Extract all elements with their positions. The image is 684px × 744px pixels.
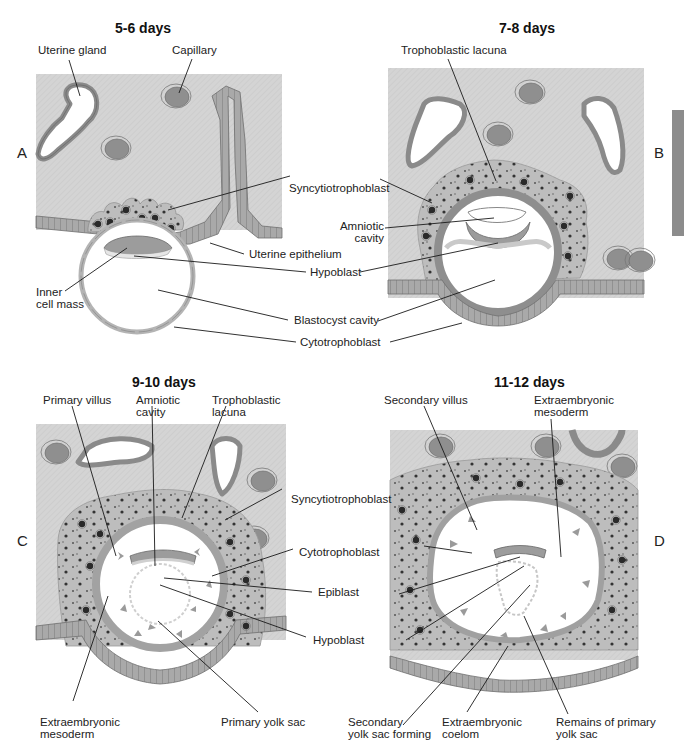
- panel-a-artwork: [36, 74, 282, 332]
- label-secondary-villus: Secondary villus: [384, 394, 468, 407]
- diagram-artwork: [0, 0, 684, 744]
- label-extraembryonic-mesoderm-d-line2: mesoderm: [534, 406, 588, 419]
- label-trophoblastic-lacuna: Trophoblastic lacuna: [401, 44, 507, 57]
- label-trophoblastic-lacuna-c-line2: lacuna: [212, 406, 246, 419]
- label-primary-villus: Primary villus: [43, 394, 111, 407]
- label-inner-cell-mass-line2: cell mass: [36, 298, 84, 311]
- label-uterine-gland: Uterine gland: [38, 44, 106, 57]
- panel-letter-a: A: [17, 144, 27, 161]
- panel-d-title: 11-12 days: [494, 374, 565, 390]
- label-capillary: Capillary: [172, 44, 217, 57]
- label-extraembryonic-coelom-line2: coelom: [442, 728, 479, 741]
- label-extraembryonic-mesoderm-c-line2: mesoderm: [40, 728, 94, 741]
- panel-letter-c: C: [17, 532, 28, 549]
- panel-b-artwork: [388, 68, 655, 326]
- panel-a-title: 5-6 days: [115, 20, 171, 36]
- label-secondary-yolk-sac-line2: yolk sac forming: [348, 728, 431, 741]
- label-amniotic-cavity-c-line2: cavity: [136, 406, 165, 419]
- label-hypoblast-top: Hypoblast: [310, 266, 361, 279]
- label-syncytiotrophoblast-bottom: Syncytiotrophoblast: [291, 493, 391, 506]
- label-cytotrophoblast-bottom: Cytotrophoblast: [299, 546, 380, 559]
- panel-c-artwork: [36, 424, 286, 700]
- panel-letter-b: B: [654, 144, 664, 161]
- label-remains-primary-yolk-sac-line2: yolk sac: [556, 728, 598, 741]
- label-hypoblast-bottom: Hypoblast: [313, 634, 364, 647]
- label-blastocyst-cavity: Blastocyst cavity: [294, 314, 379, 327]
- panel-d-artwork: [390, 430, 638, 700]
- panel-c-title: 9-10 days: [132, 374, 196, 390]
- implantation-figure: 5-6 days 7-8 days 9-10 days 11-12 days A…: [0, 0, 684, 744]
- label-amniotic-cavity-line2: cavity: [336, 232, 384, 245]
- label-uterine-epithelium: Uterine epithelium: [249, 248, 342, 261]
- panel-b-title: 7-8 days: [499, 20, 555, 36]
- label-cytotrophoblast-top: Cytotrophoblast: [300, 336, 381, 349]
- label-epiblast: Epiblast: [318, 586, 359, 599]
- label-primary-yolk-sac: Primary yolk sac: [221, 716, 305, 729]
- label-syncytiotrophoblast-top: Syncytiotrophoblast: [289, 182, 389, 195]
- panel-letter-d: D: [654, 532, 665, 549]
